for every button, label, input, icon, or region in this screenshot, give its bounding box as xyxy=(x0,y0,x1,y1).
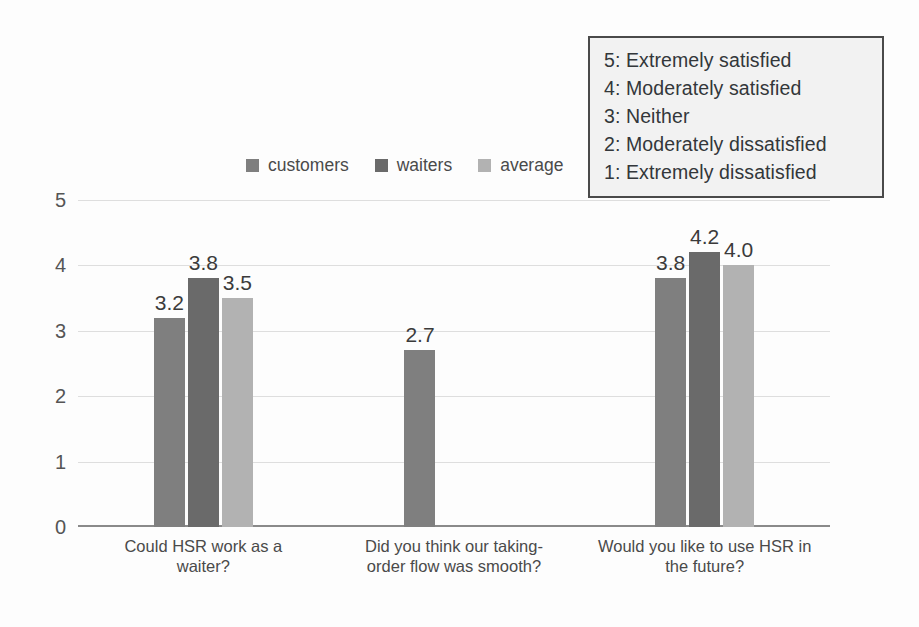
bar-slot-customers: 2.7 xyxy=(404,200,435,527)
bar-slot-average xyxy=(472,200,503,527)
plot-area: 0123453.23.83.5Could HSR work as a waite… xyxy=(78,200,830,527)
bar-slot-waiters xyxy=(438,200,469,527)
legend-entry-waiters: waiters xyxy=(375,155,452,176)
bar-slot-waiters: 4.2 xyxy=(689,200,720,527)
bar-average[interactable]: 4.0 xyxy=(723,265,754,527)
bar-slot-average: 3.5 xyxy=(222,200,253,527)
legend-entry-average: average xyxy=(478,155,563,176)
bar-customers[interactable]: 2.7 xyxy=(404,350,435,527)
legend-label-average: average xyxy=(500,155,563,176)
scale-legend-item-3: 3: Neither xyxy=(604,102,870,130)
bar-slot-average: 4.0 xyxy=(723,200,754,527)
bar-value-label: 4.2 xyxy=(690,225,719,249)
legend-swatch-waiters xyxy=(375,159,388,172)
y-axis-tick-label: 3 xyxy=(55,319,66,342)
y-axis-tick-label: 0 xyxy=(55,516,66,539)
bar-value-label: 3.5 xyxy=(223,271,252,295)
bar-average[interactable]: 3.5 xyxy=(222,298,253,527)
series-legend: customers waiters average xyxy=(246,155,563,176)
legend-label-customers: customers xyxy=(268,155,349,176)
x-axis-category-label: Could HSR work as a waiter? xyxy=(96,536,311,576)
scale-legend-item-2: 2: Moderately dissatisfied xyxy=(604,130,870,158)
bar-value-label: 3.2 xyxy=(155,291,184,315)
y-axis-tick-label: 2 xyxy=(55,385,66,408)
bar-slot-customers: 3.8 xyxy=(655,200,686,527)
bar-slot-waiters: 3.8 xyxy=(188,200,219,527)
satisfaction-scale-legend: 5: Extremely satisfied 4: Moderately sat… xyxy=(588,36,884,198)
bar-value-label: 3.8 xyxy=(656,251,685,275)
bar-customers[interactable]: 3.8 xyxy=(655,278,686,527)
legend-swatch-customers xyxy=(246,159,259,172)
bar-group: 3.23.83.5Could HSR work as a waiter? xyxy=(78,200,329,527)
y-axis-tick-label: 4 xyxy=(55,254,66,277)
legend-label-waiters: waiters xyxy=(397,155,452,176)
y-axis-tick-label: 1 xyxy=(55,450,66,473)
legend-entry-customers: customers xyxy=(246,155,349,176)
bar-slot-customers: 3.2 xyxy=(154,200,185,527)
bar-waiters[interactable]: 4.2 xyxy=(689,252,720,527)
satisfaction-bar-chart: 5: Extremely satisfied 4: Moderately sat… xyxy=(0,0,919,627)
scale-legend-item-4: 4: Moderately satisfied xyxy=(604,74,870,102)
bar-waiters[interactable]: 3.8 xyxy=(188,278,219,527)
x-axis-category-label: Would you like to use HSR in the future? xyxy=(597,536,812,576)
bar-customers[interactable]: 3.2 xyxy=(154,318,185,527)
bar-group: 3.84.24.0Would you like to use HSR in th… xyxy=(579,200,830,527)
bar-value-label: 4.0 xyxy=(724,238,753,262)
scale-legend-item-1: 1: Extremely dissatisfied xyxy=(604,158,870,186)
scale-legend-item-5: 5: Extremely satisfied xyxy=(604,46,870,74)
bar-value-label: 3.8 xyxy=(189,251,218,275)
legend-swatch-average xyxy=(478,159,491,172)
bar-group: 2.7Did you think our taking-order flow w… xyxy=(329,200,580,527)
bar-value-label: 2.7 xyxy=(405,323,434,347)
x-axis-category-label: Did you think our taking-order flow was … xyxy=(346,536,561,576)
y-axis-tick-label: 5 xyxy=(55,189,66,212)
